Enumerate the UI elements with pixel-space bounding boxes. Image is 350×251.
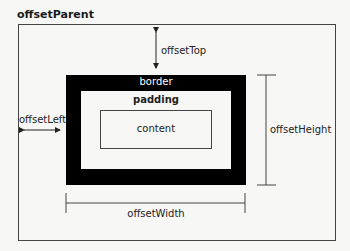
offset-width-label: offsetWidth — [66, 208, 246, 219]
offset-top-label: offsetTop — [161, 45, 206, 56]
offset-height-label: offsetHeight — [270, 124, 331, 135]
offset-left-label: offsetLeft — [19, 114, 66, 125]
